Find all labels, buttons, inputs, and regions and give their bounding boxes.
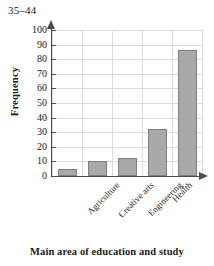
x-axis-title: Main area of education and study xyxy=(0,246,214,257)
y-axis-tick-label: 50 xyxy=(37,98,47,108)
y-axis-tick xyxy=(52,132,56,133)
gridline-vertical xyxy=(112,30,113,176)
plot-area xyxy=(52,30,202,176)
bar xyxy=(178,50,197,176)
gridline-vertical xyxy=(142,30,143,176)
y-axis-tick-label: 80 xyxy=(37,54,47,64)
y-axis-tick xyxy=(52,59,56,60)
y-axis-tick xyxy=(52,176,56,177)
chart-title: 35–44 xyxy=(8,4,37,16)
bar xyxy=(148,129,167,176)
y-axis-tick xyxy=(52,103,56,104)
y-axis-tick xyxy=(52,147,56,148)
y-axis-tick-label: 0 xyxy=(42,171,47,181)
y-axis-tick-label: 20 xyxy=(37,142,47,152)
y-axis-tick xyxy=(52,45,56,46)
gridline-vertical xyxy=(82,30,83,176)
gridline-horizontal xyxy=(52,45,202,46)
y-axis-tick-label: 100 xyxy=(32,25,47,35)
y-axis-tick-label: 70 xyxy=(37,69,47,79)
y-axis-title: Frequency xyxy=(9,57,20,127)
y-axis-tick-label: 60 xyxy=(37,83,47,93)
gridline-horizontal xyxy=(52,30,202,31)
y-axis-tick-label: 30 xyxy=(37,127,47,137)
y-axis-tick xyxy=(52,88,56,89)
x-axis-arrow-icon xyxy=(199,172,208,180)
x-axis-line xyxy=(51,176,200,177)
gridline-vertical xyxy=(202,30,203,176)
bar xyxy=(118,158,137,176)
gridline-vertical xyxy=(172,30,173,176)
y-axis-tick xyxy=(52,118,56,119)
y-axis-tick-label: 10 xyxy=(37,156,47,166)
y-axis-line xyxy=(51,27,52,176)
y-axis-tick xyxy=(52,74,56,75)
bar xyxy=(58,169,77,176)
y-axis-tick xyxy=(52,30,56,31)
y-axis-arrow-icon xyxy=(47,20,55,29)
y-axis-tick-label: 40 xyxy=(37,113,47,123)
y-axis-tick xyxy=(52,161,56,162)
bar xyxy=(88,161,107,176)
y-axis-tick-label: 90 xyxy=(37,40,47,50)
